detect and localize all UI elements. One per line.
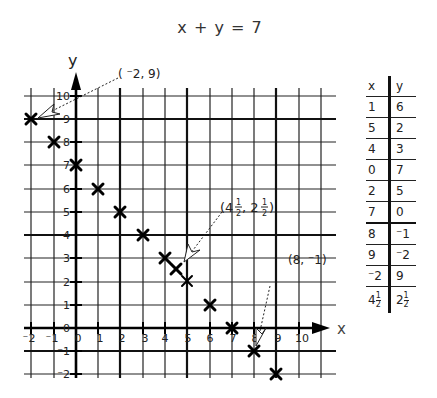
svg-text:0: 0 xyxy=(63,322,70,335)
svg-text:7: 7 xyxy=(230,332,237,345)
table-row: 9⁻2 xyxy=(366,245,416,266)
svg-text:5: 5 xyxy=(63,206,70,219)
thick-grid-lines xyxy=(24,88,336,378)
svg-text:3: 3 xyxy=(142,332,149,345)
svg-text:1: 1 xyxy=(63,299,70,312)
svg-text:⁻2: ⁻2 xyxy=(57,368,70,381)
svg-text:2: 2 xyxy=(236,209,241,218)
y-axis-label: y xyxy=(68,51,77,70)
table-row: 07 xyxy=(366,160,416,181)
table-row: 70 xyxy=(366,202,416,224)
svg-text:6: 6 xyxy=(63,183,70,196)
fraction-half: 12 xyxy=(404,292,409,309)
xy-values-table: x y 16 52 43 07 25 70 8⁻1 9⁻2 ⁻29 412 21… xyxy=(366,76,416,313)
svg-text:9: 9 xyxy=(275,332,282,345)
fraction-half: 12 xyxy=(376,292,381,309)
svg-text:4: 4 xyxy=(63,229,70,242)
table-header-x: x xyxy=(366,76,389,97)
arrowhead-icon xyxy=(38,104,60,118)
annotation-point-4half-2half: (4 1 2 , 2 1 2 ) xyxy=(220,198,274,218)
arrowhead-icon xyxy=(256,328,266,346)
svg-text:1: 1 xyxy=(97,332,104,345)
svg-text:5: 5 xyxy=(185,332,192,345)
svg-text:2: 2 xyxy=(119,332,126,345)
x-axis-label: x xyxy=(337,320,346,338)
table-row: 8⁻1 xyxy=(366,223,416,245)
svg-text:6: 6 xyxy=(207,332,214,345)
svg-text:2: 2 xyxy=(63,276,70,289)
svg-text:⁻1: ⁻1 xyxy=(46,332,59,345)
grid-lines xyxy=(24,88,336,378)
table-row: 52 xyxy=(366,118,416,139)
svg-text:(4: (4 xyxy=(220,200,233,215)
point-marker-icon xyxy=(171,264,181,274)
svg-text:10: 10 xyxy=(295,332,309,345)
svg-text:⁻2: ⁻2 xyxy=(23,332,36,345)
svg-text:9: 9 xyxy=(63,113,70,126)
annotation-point-8-neg1: (8, ⁻1) xyxy=(288,253,327,267)
svg-text:8: 8 xyxy=(63,136,70,149)
table-header-y: y xyxy=(389,76,415,97)
y-axis-arrow-icon xyxy=(71,72,81,90)
svg-text:1: 1 xyxy=(236,198,241,207)
svg-text:2: 2 xyxy=(262,209,267,218)
table-row: ⁻29 xyxy=(366,266,416,287)
svg-text:, 2: , 2 xyxy=(242,200,259,215)
svg-text:⁻1: ⁻1 xyxy=(57,345,70,358)
table-row: 25 xyxy=(366,181,416,202)
svg-text:4: 4 xyxy=(162,332,169,345)
table-row: 43 xyxy=(366,139,416,160)
table-row: 412 212 xyxy=(366,287,416,314)
svg-text:7: 7 xyxy=(63,159,70,172)
svg-text:0: 0 xyxy=(75,332,82,345)
svg-text:): ) xyxy=(269,200,274,215)
annotation-point-neg2-9: ( ⁻2, 9) xyxy=(118,67,160,81)
svg-text:1: 1 xyxy=(262,198,267,207)
svg-text:3: 3 xyxy=(63,252,70,265)
data-points xyxy=(26,114,281,379)
svg-text:10: 10 xyxy=(56,90,70,103)
table-row: 16 xyxy=(366,97,416,118)
